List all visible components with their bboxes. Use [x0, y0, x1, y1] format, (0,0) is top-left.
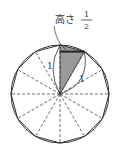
- side-label-right: 1: [79, 74, 85, 84]
- height-label: 高さ: [55, 13, 75, 25]
- fraction-numerator: 1: [84, 10, 89, 19]
- fraction-denominator: 2: [84, 22, 89, 31]
- left-brace: [53, 45, 60, 94]
- side-label-left: 1: [47, 61, 53, 71]
- dodecagon-diagram: 高さ 1 2 1 1: [0, 0, 113, 153]
